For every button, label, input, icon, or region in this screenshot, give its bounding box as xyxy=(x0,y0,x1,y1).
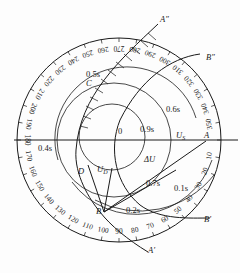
dial-label: 70 xyxy=(145,220,155,231)
label-0.1s: 0.1s xyxy=(174,183,188,193)
label-A-double-prime: A″ xyxy=(159,14,169,24)
dial-label: 150 xyxy=(33,179,46,193)
dial-tick xyxy=(101,237,102,241)
dial-tick xyxy=(204,189,207,191)
locus-curve-B xyxy=(114,54,210,218)
dial-tick xyxy=(19,157,23,158)
dial-tick xyxy=(168,52,170,55)
label-Ud: UD xyxy=(97,164,108,175)
dial-label: 200 xyxy=(27,102,39,116)
label-A-prime: A′ xyxy=(147,245,155,255)
phasor-B-to-dU xyxy=(104,170,176,212)
diagram-canvas: 1020304050607080901001101201301401501601… xyxy=(0,0,240,273)
dial-tick xyxy=(204,89,207,91)
dial-tick xyxy=(168,225,170,228)
dial-tick xyxy=(216,122,220,123)
dial-tick xyxy=(53,215,56,218)
dial-label: 160 xyxy=(27,164,39,178)
dial-label: 190 xyxy=(24,118,35,131)
dial-label: 240 xyxy=(66,54,80,67)
dial-label: 220 xyxy=(42,74,56,89)
dial-label: 260 xyxy=(97,45,110,56)
dial-label: 340 xyxy=(198,102,210,116)
dial-tick xyxy=(84,232,85,236)
dial-label: 170 xyxy=(24,150,35,163)
label-Us: US xyxy=(176,130,185,141)
dial-tick xyxy=(31,89,34,91)
label-B: B xyxy=(96,206,101,216)
phasor-dial-diagram: 1020304050607080901001101201301401501601… xyxy=(0,0,240,273)
label-0.4s: 0.4s xyxy=(38,143,52,153)
dial-tick xyxy=(23,174,27,175)
dial-tick xyxy=(68,52,70,55)
dial-label: 320 xyxy=(182,74,196,89)
dial-tick xyxy=(31,189,34,191)
dial-tick xyxy=(194,74,197,77)
label-D: D xyxy=(77,166,85,176)
dial-label: 10 xyxy=(204,151,214,160)
label-0.7s: 0.7s xyxy=(146,178,160,188)
dial-label: 210 xyxy=(33,87,46,101)
dial-label: 300 xyxy=(157,54,171,67)
dial-label: 110 xyxy=(81,220,95,232)
label-0.2s: 0.2s xyxy=(126,205,140,215)
dial-label: 290 xyxy=(143,48,157,60)
dial-label: 270 xyxy=(113,44,124,53)
label-B-prime: B′ xyxy=(204,214,211,224)
dial-tick xyxy=(23,105,27,106)
time-circle-0.9s xyxy=(79,104,145,170)
dial-label: 310 xyxy=(170,63,185,77)
dial-label: 130 xyxy=(53,203,68,217)
dial-label: 20 xyxy=(199,166,210,176)
dial-label: 80 xyxy=(130,225,139,235)
dial-tick xyxy=(153,44,154,48)
dial-tick xyxy=(194,203,197,206)
dial-tick xyxy=(211,174,215,175)
dial-tick xyxy=(136,40,137,44)
label-0.6s: 0.6s xyxy=(166,104,180,114)
dial-label: 330 xyxy=(191,87,204,101)
dial-label: 230 xyxy=(53,63,68,77)
dial-label: 350 xyxy=(203,118,214,131)
dial-label: 120 xyxy=(66,212,80,225)
label-origin: 0 xyxy=(118,126,122,136)
dial-label: 250 xyxy=(81,48,95,60)
dial-tick xyxy=(153,232,154,236)
dial-tick xyxy=(84,44,85,48)
dial-tick xyxy=(216,157,220,158)
label-0.9s: 0.9s xyxy=(140,124,154,134)
dial-label: 50 xyxy=(172,204,184,216)
label-A: A xyxy=(203,130,210,140)
label-C: C xyxy=(86,78,92,88)
dial-tick xyxy=(136,237,137,241)
label-dU: ΔU xyxy=(143,154,156,164)
dial-tick xyxy=(41,74,44,77)
dial-tick xyxy=(53,62,56,65)
dial-tick xyxy=(101,40,102,44)
dial-tick xyxy=(182,62,185,65)
dial-label: 140 xyxy=(42,191,56,206)
dial-tick xyxy=(68,225,70,228)
dial-tick xyxy=(19,122,23,123)
dial-tick xyxy=(41,203,44,206)
label-0.5s: 0.5s xyxy=(86,69,100,79)
dial-label: 100 xyxy=(97,224,110,235)
label-B-double-prime: B″ xyxy=(206,52,215,62)
dial-label: 180 xyxy=(23,134,32,145)
dial-tick xyxy=(211,105,215,106)
